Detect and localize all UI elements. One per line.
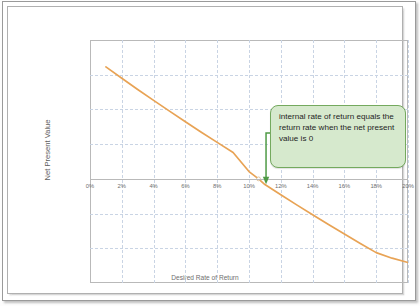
zero-axis-line [90,179,408,180]
irr-callout-box: internal rate of return equals the retur… [270,105,406,168]
page-background: Net Present Value Desired Rate of Return… [0,0,420,306]
gridline-vertical [408,40,409,283]
y-axis-title: Net Present Value [43,119,52,180]
chart-container: Net Present Value Desired Rate of Return… [7,6,403,294]
